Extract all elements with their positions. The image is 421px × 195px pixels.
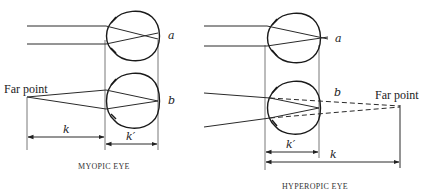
- hyperopic-eye-panel: a b Far point k′ k HYPEROPIC EYE: [204, 13, 419, 191]
- dimension-k-label: k: [63, 123, 70, 136]
- incoming-ray: [204, 118, 270, 127]
- refracted-ray: [106, 33, 158, 44]
- hyperopic-eye-b: b Far point: [204, 81, 419, 134]
- hyperopic-eye-a: a: [204, 13, 342, 62]
- myopic-caption: MYOPIC EYE: [78, 162, 130, 171]
- incoming-ray: [204, 93, 270, 98]
- diverging-ray: [27, 97, 106, 109]
- lens-mark: [272, 50, 277, 56]
- myopic-eye-a: a: [27, 11, 175, 60]
- refracted-ray: [106, 90, 158, 101]
- myopic-eye-panel: a b Far point k k′ MYOPIC EYE: [4, 11, 175, 171]
- label-b: b: [334, 86, 341, 99]
- dimension-k-label: k: [330, 148, 337, 161]
- far-point-label: Far point: [375, 88, 419, 102]
- dimension-k-prime-label: k′: [126, 130, 136, 143]
- refracted-ray: [267, 37, 328, 46]
- label-b: b: [168, 94, 175, 107]
- refracted-ray: [106, 101, 158, 109]
- refracted-ray: [106, 26, 158, 39]
- hyperopic-caption: HYPEROPIC EYE: [282, 182, 348, 191]
- lens-mark: [111, 17, 116, 23]
- dimension-k-prime-label: k′: [286, 138, 296, 151]
- eye-diagram: a b Far point k k′ MYOPIC EYE: [0, 0, 421, 195]
- lens-mark: [272, 87, 277, 93]
- refracted-ray: [270, 108, 319, 118]
- myopic-eye-b: b Far point: [4, 73, 175, 128]
- virtual-ray-extension: [270, 107, 400, 118]
- far-point-label: Far point: [4, 82, 48, 96]
- lens-mark: [272, 19, 277, 25]
- lens-mark: [111, 79, 116, 85]
- label-a: a: [168, 29, 175, 42]
- label-a: a: [335, 32, 342, 45]
